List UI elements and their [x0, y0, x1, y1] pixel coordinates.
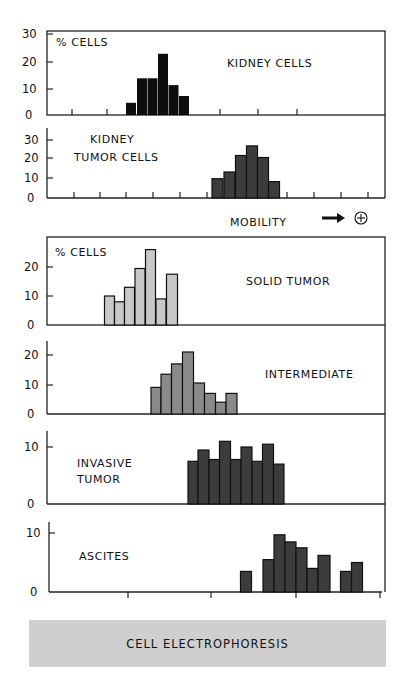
- bars: [212, 146, 280, 198]
- bar: [151, 387, 161, 414]
- bar: [105, 296, 115, 325]
- electrophoresis-figure: 30 20 10 0 % CELLS KIDNEY CELLS: [0, 0, 408, 699]
- bar: [188, 461, 198, 504]
- y-tick-label: 30: [24, 133, 39, 147]
- x-ticks: [128, 592, 380, 598]
- bar: [183, 352, 194, 414]
- y-tick-label: 0: [25, 108, 32, 122]
- bar: [172, 364, 183, 414]
- bar: [179, 96, 189, 115]
- y-axis-label: % CELLS: [55, 246, 107, 259]
- bar: [274, 535, 285, 592]
- bar: [241, 447, 252, 504]
- bar: [224, 172, 235, 198]
- panel-title-line2: TUMOR: [76, 473, 121, 486]
- y-tick-label: 10: [24, 440, 39, 454]
- bar: [231, 460, 242, 505]
- bar: [341, 571, 352, 592]
- y-axis-label: % CELLS: [56, 36, 108, 49]
- arrow-right-icon: [322, 213, 345, 223]
- y-tick-label: 10: [26, 526, 41, 540]
- panel-title: KIDNEY CELLS: [227, 57, 312, 70]
- panel-title: INTERMEDIATE: [265, 368, 353, 381]
- bar: [263, 444, 274, 504]
- y-tick-label: 20: [22, 55, 37, 69]
- bar: [318, 555, 330, 592]
- bar: [247, 146, 258, 198]
- y-ticks: [47, 34, 53, 89]
- bar: [216, 402, 227, 414]
- panel-title: SOLID TUMOR: [246, 275, 330, 288]
- bar: [252, 461, 263, 504]
- panel-ascites: 10 0 ASCITES: [26, 504, 385, 599]
- y-tick-label: 10: [24, 289, 39, 303]
- bar: [137, 78, 147, 115]
- bar: [285, 542, 296, 592]
- y-tick-label: 10: [24, 171, 39, 185]
- y-tick-label: 20: [24, 348, 39, 362]
- y-tick-label: 0: [27, 191, 34, 205]
- bars: [151, 352, 237, 414]
- bar: [209, 460, 220, 505]
- bar: [198, 450, 209, 504]
- panel-title: ASCITES: [79, 550, 129, 563]
- bars: [241, 535, 363, 592]
- bar: [352, 563, 363, 593]
- bar: [169, 85, 179, 115]
- panel-kidney-cells: 30 20 10 0 % CELLS KIDNEY CELLS: [22, 27, 385, 122]
- bar: [125, 287, 135, 325]
- bar: [146, 250, 156, 325]
- bar: [220, 441, 231, 504]
- bar: [236, 156, 247, 199]
- y-tick-label: 20: [24, 151, 39, 165]
- y-ticks: [47, 267, 53, 296]
- bar: [148, 78, 158, 115]
- bars: [188, 441, 284, 504]
- bar: [269, 182, 280, 198]
- bar: [226, 393, 237, 414]
- bar: [296, 548, 307, 592]
- bar: [161, 374, 172, 414]
- panel-title-line2: TUMOR CELLS: [73, 151, 159, 164]
- panel-title-line1: KIDNEY: [90, 133, 134, 146]
- y-ticks: [47, 355, 53, 385]
- bar: [135, 269, 145, 326]
- bar: [205, 393, 216, 414]
- bars: [126, 54, 189, 115]
- bar: [126, 103, 136, 115]
- figure-caption-banner: CELL ELECTROPHORESIS: [29, 620, 386, 667]
- bar: [263, 560, 274, 592]
- y-ticks: [47, 140, 53, 178]
- panel-kidney-tumor-cells: 30 20 10 0 KIDNEY TUMOR CELLS MOBILITY: [24, 115, 385, 229]
- banner-title: CELL ELECTROPHORESIS: [126, 637, 289, 651]
- y-tick-label: 0: [30, 585, 37, 599]
- y-tick-label: 30: [22, 27, 37, 41]
- y-tick-label: 10: [22, 82, 37, 96]
- panel-solid-tumor: 20 10 0 % CELLS SOLID TUMOR: [24, 237, 385, 332]
- mobility-label: MOBILITY: [230, 216, 287, 229]
- bar: [258, 158, 269, 199]
- bar: [194, 383, 205, 414]
- panel-title-line1: INVASIVE: [77, 457, 132, 470]
- bar: [156, 299, 166, 325]
- bar: [167, 274, 178, 325]
- bar: [212, 179, 223, 198]
- bar: [115, 302, 125, 325]
- bar: [307, 568, 318, 592]
- bar: [158, 54, 168, 115]
- bar: [274, 464, 285, 504]
- bar: [241, 571, 252, 592]
- plus-circle-icon: [355, 212, 367, 224]
- bars: [105, 250, 178, 325]
- y-tick-label: 20: [24, 260, 39, 274]
- y-tick-label: 0: [27, 407, 34, 421]
- panel-intermediate: 20 10 0 INTERMEDIATE: [24, 325, 385, 421]
- y-tick-label: 10: [24, 378, 39, 392]
- y-tick-label: 0: [27, 318, 34, 332]
- y-tick-label: 0: [27, 497, 34, 511]
- panel-invasive-tumor: 10 0 INVASIVE TUMOR: [24, 414, 385, 511]
